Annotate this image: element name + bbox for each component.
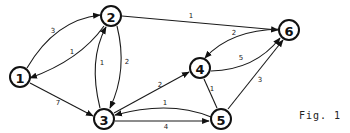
- edge-2-to-6: [122, 16, 278, 30]
- edge-label-3-5: 4: [164, 123, 169, 131]
- svg-text:2: 2: [106, 10, 115, 25]
- edge-label-4-5: 1: [210, 85, 214, 93]
- edge-label-4-6: 5: [239, 54, 243, 62]
- edge-1-to-2: [27, 15, 100, 68]
- node-4: 4: [190, 58, 210, 78]
- edge-4-to-6: [211, 38, 280, 71]
- edge-label-6-4: 2: [232, 29, 236, 37]
- svg-text:3: 3: [99, 113, 108, 128]
- svg-text:4: 4: [195, 62, 204, 77]
- edge-label-1-2: 3: [51, 27, 55, 35]
- figure-caption: Fig. 1: [299, 110, 341, 121]
- edge-label-5-3: 1: [163, 99, 167, 107]
- edge-5-to-6: [228, 40, 283, 109]
- edge-5-to-3: [115, 108, 211, 117]
- node-2: 2: [101, 6, 121, 26]
- edge-3-to-2: [95, 27, 106, 108]
- edge-label-3-4: 2: [158, 81, 162, 89]
- directed-graph: 3 1 7 1 2 1 2 1 4 2 5 1 3 1 2 3 4 5 6: [0, 0, 350, 133]
- node-6: 6: [279, 20, 299, 40]
- edge-2-to-3: [110, 26, 121, 108]
- node-5: 5: [211, 109, 231, 129]
- edge-1-to-3: [30, 83, 93, 116]
- edge-3-to-4: [114, 72, 189, 113]
- svg-text:1: 1: [15, 71, 24, 86]
- edge-label-2-3: 2: [125, 58, 129, 66]
- node-3: 3: [94, 109, 114, 129]
- edge-4-to-5: [204, 79, 217, 108]
- edge-label-2-1: 1: [70, 48, 74, 56]
- edge-2-to-1: [30, 26, 104, 78]
- svg-text:5: 5: [216, 113, 225, 128]
- edge-label-5-6: 3: [258, 76, 262, 84]
- node-1: 1: [10, 67, 30, 87]
- edge-label-1-3: 7: [56, 99, 60, 107]
- edge-label-3-2: 1: [100, 59, 104, 67]
- edge-label-2-6: 1: [189, 12, 193, 20]
- svg-text:6: 6: [284, 24, 293, 39]
